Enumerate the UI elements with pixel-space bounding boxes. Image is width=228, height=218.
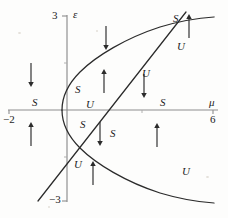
- x-axis-label-mu: μ: [209, 97, 215, 108]
- stability-label-s-right-axis: S: [160, 97, 166, 108]
- y-axis-tick-label-top: 3: [52, 10, 58, 21]
- y-axis-label-epsilon: ε: [73, 9, 77, 20]
- bifurcation-diagram-figure: ε 3 −3 μ 6 −2 S S U S S S U U S U U: [0, 0, 228, 218]
- x-axis-tick-label-right: 6: [210, 114, 216, 125]
- x-axis-tick-label-left: −2: [3, 114, 15, 125]
- stability-label-u-line-mid: U: [142, 68, 150, 79]
- stability-label-s-inside-lower: S: [80, 119, 86, 130]
- y-axis-tick-label-bottom: −3: [49, 194, 61, 205]
- stability-label-s-line-top: S: [173, 13, 179, 24]
- parabola-upper-branch-curve: [62, 17, 214, 110]
- stability-label-u-line-lower-left: U: [74, 159, 82, 170]
- stability-label-s-inside-upper: S: [75, 84, 81, 95]
- stability-label-u-inside-center: U: [86, 99, 94, 110]
- stability-label-s-below-line: S: [110, 128, 116, 139]
- stability-label-u-parabola-upper-right: U: [177, 41, 185, 52]
- stability-label-u-parabola-lower-right: U: [182, 166, 190, 177]
- stability-label-s-left-axis: S: [32, 97, 38, 108]
- diagram-canvas: [0, 0, 228, 218]
